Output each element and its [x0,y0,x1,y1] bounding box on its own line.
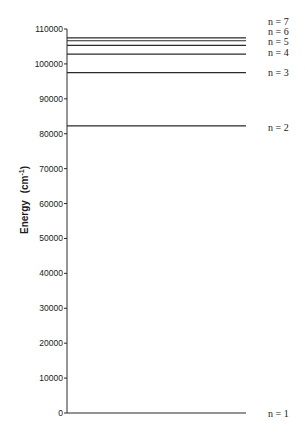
y-tick-label: 20000 [39,338,63,348]
y-tick-label: 90000 [39,94,63,104]
energy-levels [67,38,246,413]
y-axis-label-unit-close: ) [19,166,30,169]
energy-level-chart: 0100002000030000400005000060000700008000… [0,0,305,433]
y-tick-label: 70000 [39,164,63,174]
energy-level-label: n = 7 [268,16,289,27]
y-axis: 0100002000030000400005000060000700008000… [35,24,67,418]
energy-level-label: n = 1 [268,408,289,419]
y-tick-label: 10000 [39,373,63,383]
y-tick-label: 100000 [35,59,64,69]
y-tick-label: 40000 [39,268,63,278]
y-tick-label: 30000 [39,303,63,313]
y-tick-label: 60000 [39,199,63,209]
y-axis-label-text: Energy [19,200,30,234]
y-tick-label: 50000 [39,233,63,243]
energy-level-label: n = 5 [268,36,289,47]
level-labels: n = 1n = 2n = 3n = 4n = 5n = 6n = 7 [268,16,289,419]
y-tick-label: 0 [58,408,63,418]
y-axis-label-unit: (cm [19,175,30,193]
y-tick-label: 110000 [35,24,63,34]
energy-level-label: n = 3 [268,67,289,78]
y-axis-label: Energy (cm-1) [18,166,30,234]
energy-level-label: n = 2 [268,122,289,133]
y-tick-label: 80000 [39,129,63,139]
energy-level-label: n = 6 [268,26,289,37]
energy-level-label: n = 4 [268,47,289,58]
